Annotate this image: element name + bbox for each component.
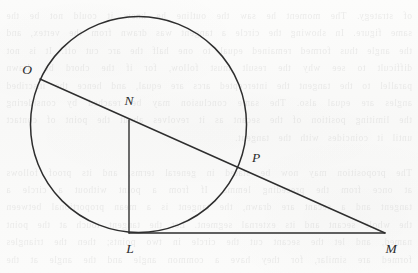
secant-line-OM bbox=[40, 79, 385, 233]
figure-strokes bbox=[31, 17, 386, 234]
point-label-M: M bbox=[385, 241, 396, 257]
point-label-N: N bbox=[124, 93, 133, 109]
geometry-figure bbox=[0, 0, 418, 273]
main-circle bbox=[31, 17, 247, 233]
figure-page: of strategy. The moment he saw the outli… bbox=[0, 0, 418, 273]
point-label-O: O bbox=[22, 62, 32, 78]
point-label-L: L bbox=[126, 241, 134, 257]
point-label-P: P bbox=[252, 150, 260, 166]
